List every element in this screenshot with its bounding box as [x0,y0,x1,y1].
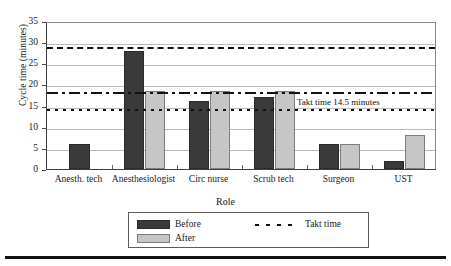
x-axis-separator [372,165,373,169]
upper-dashed-line [47,47,435,49]
bar-after [210,91,231,169]
legend-swatch-after [137,234,170,243]
y-axis-tick-mark [42,64,46,65]
y-axis-tick-label: 35 [0,17,38,27]
legend-dashed-line-icon [255,224,299,226]
plot-area: Takt time 14.5 minutes [46,22,436,170]
x-axis-separator [307,165,308,169]
y-axis-tick-mark [42,107,46,108]
y-axis-tick-mark [42,128,46,129]
bar-before [189,101,210,169]
bar-after [275,91,296,169]
gridline [47,65,435,66]
y-axis-tick-label: 30 [0,38,38,48]
bar-before [384,161,405,169]
y-axis-tick-mark [42,149,46,150]
x-axis-tick-label: UST [344,174,451,184]
takt-time-line [47,109,435,111]
bar-after [145,91,166,169]
bottom-rule [5,256,446,259]
y-axis-tick-mark [42,43,46,44]
gridline [47,129,435,130]
y-axis-tick-mark [42,170,46,171]
y-axis-tick-mark [42,85,46,86]
chart-legend: Before After Takt time [128,212,369,248]
y-axis-tick-label: 10 [0,123,38,133]
bar-after [340,144,361,169]
takt-time-annotation: Takt time 14.5 minutes [297,97,380,107]
gridline [47,86,435,87]
x-axis-separator [177,165,178,169]
legend-label-takt-time: Takt time [305,218,341,230]
gridline [47,44,435,45]
y-axis-tick-label: 5 [0,144,38,154]
y-axis-tick-label: 20 [0,80,38,90]
x-axis-title: Role [0,196,451,207]
y-axis-tick-mark [42,22,46,23]
bar-before [319,144,340,169]
x-axis-separator [242,165,243,169]
y-axis-tick-label: 25 [0,59,38,69]
y-axis-tick-label: 15 [0,102,38,112]
legend-label-after: After [175,232,195,244]
bar-before [69,144,90,169]
legend-label-before: Before [175,218,201,230]
mid-dash-dot-line [47,92,435,94]
bar-after [405,135,426,169]
chart-figure: Cycle time (minutes) Role Takt time 14.5… [0,0,451,266]
gridline [47,150,435,151]
legend-swatch-before [137,220,170,229]
x-axis-separator [112,165,113,169]
